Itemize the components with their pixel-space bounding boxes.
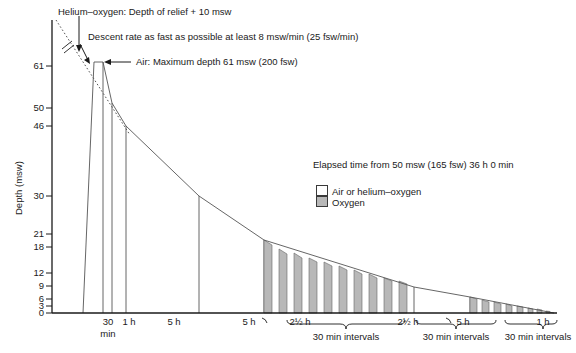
oxygen-band-group-1: [264, 240, 407, 313]
ytick-50: 50: [18, 102, 44, 113]
legend-swatch-air: [316, 185, 328, 196]
max-depth-box: [83, 62, 103, 313]
xtick-2-half-h-second: 2½ h: [388, 316, 428, 327]
ytick-9: 9: [18, 280, 44, 291]
legend-label-air: Air or helium–oxygen: [332, 186, 421, 197]
stop-50-stem: [103, 62, 112, 313]
stop-21-stem: [199, 196, 264, 313]
y-tick-marks: [46, 66, 52, 313]
y-axis-label: Depth (msw): [13, 161, 24, 215]
stop-30-stem: [126, 126, 199, 313]
leg-5h-second: [414, 287, 470, 313]
ytick-30: 30: [18, 190, 44, 201]
xtick-5h-first: 5 h: [155, 316, 193, 327]
descent-rate-note: Descent rate as fast as possible at leas…: [88, 31, 358, 42]
ytick-21: 21: [18, 228, 44, 239]
legend-swatch-oxygen: [316, 196, 328, 207]
brace-label-intervals-3: 30 min intervals: [478, 331, 576, 342]
ytick-61: 61: [18, 60, 44, 71]
ytick-46: 46: [18, 120, 44, 131]
ytick-0: 0: [18, 307, 44, 318]
stop-46-stem: [112, 103, 126, 313]
elapsed-time-note: Elapsed time from 50 msw (165 fsw) 36 h …: [313, 159, 514, 170]
brace-label-intervals-1: 30 min intervals: [286, 331, 406, 342]
helium-oxygen-note: Helium–oxygen: Depth of relief + 10 msw: [58, 6, 231, 17]
ytick-18: 18: [18, 241, 44, 252]
legend-label-oxygen: Oxygen: [332, 197, 365, 208]
ytick-12: 12: [18, 267, 44, 278]
air-max-depth-note: Air: Maximum depth 61 msw (200 fsw): [136, 56, 298, 67]
xtick-1h-first: 1 h: [114, 316, 144, 327]
xtick-2-half-h-first: 2½ h: [280, 316, 320, 327]
xtick-5h-second: 5 h: [230, 316, 268, 327]
xtick-5h-third: 5 h: [444, 316, 482, 327]
xtick-30-min-secondline: min: [88, 328, 128, 339]
xtick-1h-last: 1 h: [528, 316, 558, 327]
